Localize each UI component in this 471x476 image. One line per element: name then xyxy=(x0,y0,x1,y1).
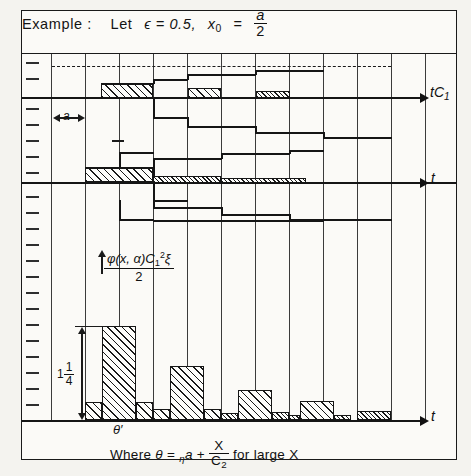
dimension-height-frac-den: 4 xyxy=(64,374,75,388)
middle-formula: φ(x, α)C12ξ 2 xyxy=(104,250,174,284)
middle-axis-line xyxy=(22,182,424,184)
staircase-step xyxy=(85,167,154,169)
staircase-riser xyxy=(153,182,155,208)
dimension-arrow-down xyxy=(78,413,86,420)
staircase-riser xyxy=(153,167,155,177)
gridline xyxy=(357,182,358,420)
figure-root: Example : Let ϵ = 0.5, x0 = a 2 tC1 a xyxy=(0,0,471,476)
histogram-bar xyxy=(221,413,238,420)
axis-tick xyxy=(26,356,39,358)
staircase-step xyxy=(221,214,290,216)
gridline xyxy=(357,54,358,98)
gridline xyxy=(289,98,290,182)
histogram-bar xyxy=(102,326,136,420)
gridline xyxy=(391,98,392,182)
caption-fraction-denominator: C2 xyxy=(209,453,229,470)
gridline xyxy=(51,182,52,420)
caption-frac-den-subscript: 2 xyxy=(221,459,227,470)
reference-line-dashdot xyxy=(52,66,391,67)
caption-fraction-numerator: X xyxy=(209,439,229,453)
dimension-line-height xyxy=(81,331,83,415)
axis-tick xyxy=(26,244,39,246)
title-let-word: Let xyxy=(111,16,133,32)
axis-tick xyxy=(26,78,39,80)
caption-plus: + xyxy=(197,447,205,462)
title-equals: = xyxy=(234,16,243,32)
gridline xyxy=(323,54,324,98)
title-example-word: Example : xyxy=(22,16,92,32)
staircase-step xyxy=(187,126,256,128)
axis-tick xyxy=(26,62,39,64)
staircase-step xyxy=(119,219,154,221)
axis-tick xyxy=(26,340,39,342)
gridline xyxy=(153,54,154,98)
title-epsilon-expr: ϵ = 0.5, xyxy=(144,16,196,32)
staircase-step xyxy=(153,158,222,160)
top-axis-label: tC1 xyxy=(430,84,450,102)
top-axis-arrowhead xyxy=(420,93,429,103)
gridline xyxy=(221,98,222,182)
top-axis-label-text: tC xyxy=(430,84,444,100)
caption-where: Where xyxy=(110,447,151,462)
axis-tick xyxy=(26,196,39,198)
gridline xyxy=(391,54,392,98)
title-fraction: a 2 xyxy=(254,8,267,39)
staircase-riser xyxy=(119,200,121,220)
gridline xyxy=(323,182,324,420)
title-x0-symbol: x xyxy=(208,16,216,32)
axis-tick xyxy=(26,260,39,262)
axis-tick xyxy=(26,228,39,230)
hatched-block xyxy=(85,168,153,182)
staircase-step xyxy=(255,132,324,134)
staircase-step xyxy=(153,220,324,222)
staircase-step xyxy=(255,70,324,72)
staircase-step xyxy=(221,153,290,155)
staircase-riser xyxy=(221,153,223,159)
top-axis-label-subscript: 1 xyxy=(444,91,450,102)
histogram-bar xyxy=(153,409,170,420)
gridline xyxy=(153,182,154,420)
gridline xyxy=(425,54,426,98)
bottom-axis-arrowhead xyxy=(420,416,429,426)
dimension-height-fraction: 14 xyxy=(64,361,75,387)
title-fraction-numerator: a xyxy=(254,8,267,23)
middle-axis-label: t xyxy=(431,170,435,186)
dimension-label-a: a xyxy=(63,109,70,123)
histogram-bar xyxy=(357,411,391,420)
page-title: Example : Let ϵ = 0.5, x0 = a 2 xyxy=(22,9,267,40)
axis-tick xyxy=(26,124,39,126)
caption-theta: θ xyxy=(155,447,163,462)
gridline xyxy=(187,98,188,182)
staircase-step xyxy=(323,137,392,139)
bottom-axis-label-text: t xyxy=(431,408,435,424)
theta-prime-label: θ′ xyxy=(113,422,123,437)
caption-frac-den-c: C xyxy=(211,453,221,468)
axis-tick xyxy=(26,156,39,158)
histogram-bar xyxy=(238,390,272,420)
middle-axis-label-text: t xyxy=(431,170,435,186)
title-x0-subscript: 0 xyxy=(216,23,222,34)
gridline xyxy=(391,182,392,420)
title-fraction-denominator: 2 xyxy=(254,23,267,39)
figure-caption: Where θ = ηa + X C2 for large X xyxy=(110,440,299,471)
staircase-step xyxy=(153,200,188,202)
axis-tick xyxy=(26,324,39,326)
staircase-riser xyxy=(289,150,291,154)
axis-tick xyxy=(26,140,39,142)
gridline xyxy=(51,98,52,182)
caption-tail: for large X xyxy=(233,447,299,462)
axis-tick xyxy=(26,172,39,174)
caption-equals: = xyxy=(167,447,175,462)
staircase-step xyxy=(187,74,256,76)
axis-tick xyxy=(26,292,39,294)
caption-fraction: X C2 xyxy=(209,439,229,470)
staircase-step xyxy=(119,152,154,154)
axis-tick xyxy=(26,276,39,278)
hatched-block xyxy=(101,84,153,98)
axis-tick xyxy=(26,404,39,406)
formula-pointer-stem xyxy=(101,256,103,274)
axis-tick xyxy=(26,308,39,310)
histogram-bar xyxy=(85,402,102,420)
middle-formula-xi: ξ xyxy=(165,251,171,266)
dimension-label-height: 114 xyxy=(57,362,74,388)
